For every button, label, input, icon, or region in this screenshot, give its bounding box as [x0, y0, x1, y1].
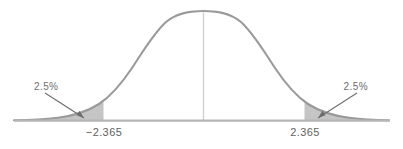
normal-distribution-chart: 2.5% 2.5% −2.365 2.365: [0, 0, 403, 149]
left-area-percent-label: 2.5%: [34, 81, 58, 92]
right-area-percent-label: 2.5%: [344, 81, 368, 92]
bell-curve: [14, 11, 389, 120]
chart-canvas: 2.5% 2.5% −2.365 2.365: [0, 0, 403, 149]
x-tick-label-positive-critical: 2.365: [290, 126, 320, 138]
x-tick-label-negative-critical: −2.365: [86, 126, 122, 138]
